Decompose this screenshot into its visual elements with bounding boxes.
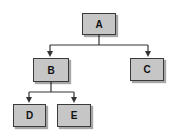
node-a-label: A: [95, 19, 102, 30]
connector-b-children: [26, 82, 77, 103]
node-b-label: B: [47, 65, 54, 76]
node-d: D: [13, 104, 46, 127]
tree-diagram: A B C D E: [0, 0, 174, 138]
arrow-head-c: [145, 51, 151, 57]
arrow-head-b: [47, 51, 53, 57]
node-c: C: [130, 58, 164, 81]
node-a: A: [82, 13, 116, 35]
node-c-label: C: [143, 64, 150, 75]
connector-a-children: [47, 35, 151, 57]
node-e-label: E: [71, 110, 78, 121]
arrow-head-e: [71, 97, 77, 103]
arrow-head-d: [26, 97, 32, 103]
node-d-label: D: [26, 110, 33, 121]
node-e: E: [57, 104, 91, 127]
node-b: B: [33, 58, 69, 82]
